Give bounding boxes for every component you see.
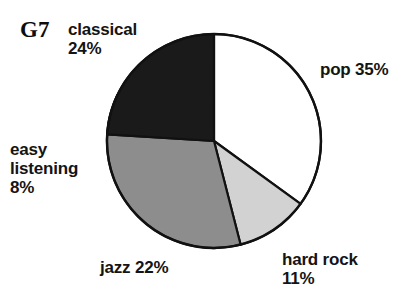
slice-label-easy-listening-line2: listening [10,159,78,178]
slice-label-hard-rock: hard rock11% [282,250,358,288]
slice-label-easy-listening: easylistening8% [10,140,78,197]
slice-label-easy-listening-line3: 8% [10,178,34,197]
slice-label-hard-rock-line2: 11% [282,269,315,288]
slice-label-jazz: jazz 22% [100,258,168,277]
slice-label-hard-rock-line1: hard rock [282,250,358,269]
slice-label-classical: classical24% [68,20,137,58]
pie-chart-figure: G7 classical24% pop 35% hard rock11% jaz… [0,0,412,295]
slice-label-classical-line2: 24% [68,39,101,58]
slice-label-pop: pop 35% [320,60,389,79]
slice-label-classical-line1: classical [68,20,137,39]
slice-label-easy-listening-line1: easy [10,140,47,159]
chart-identifier-label: G7 [20,18,49,42]
